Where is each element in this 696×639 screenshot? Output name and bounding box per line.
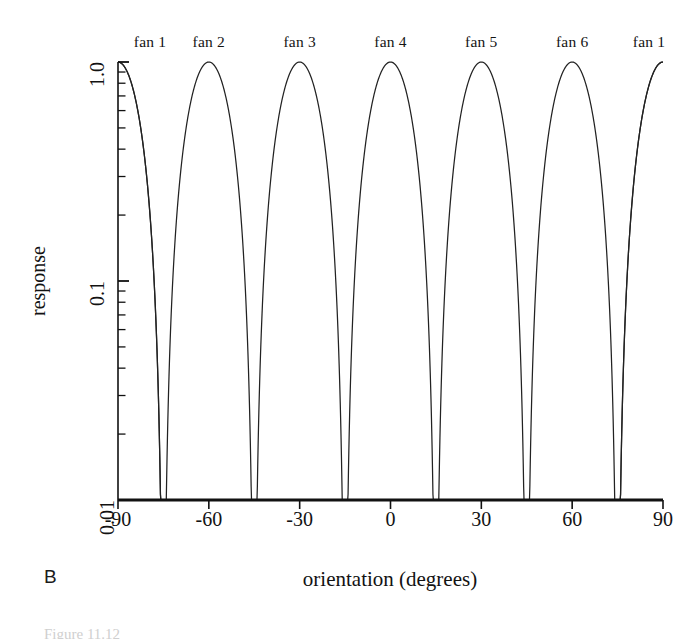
- y-tick-label: 0.01: [96, 500, 119, 535]
- fan-label: fan 1: [633, 33, 665, 51]
- x-tick-label: -60: [195, 508, 222, 531]
- fan-label: fan 6: [556, 33, 588, 51]
- axis-lines: [118, 62, 663, 500]
- curves-group: [118, 62, 663, 500]
- panel-label: B: [44, 566, 57, 588]
- fan-label: fan 5: [465, 33, 497, 51]
- y-tick-label: 1.0: [86, 62, 109, 87]
- plot-area: [118, 62, 663, 500]
- x-tick-label: -30: [286, 508, 313, 531]
- x-tick-label: 60: [562, 508, 582, 531]
- axis-ticks: [118, 62, 663, 509]
- tuning-curve: [118, 62, 663, 500]
- fan-label: fan 2: [193, 33, 225, 51]
- y-tick-label: 0.1: [86, 281, 109, 306]
- y-axis-title: response: [27, 246, 50, 316]
- tuning-curve-plot: [118, 62, 663, 500]
- tuning-curve: [118, 62, 663, 500]
- tuning-curve: [118, 62, 663, 500]
- tuning-curve: [118, 62, 663, 500]
- figure-panel-b: fan 1fan 2fan 3fan 4fan 5fan 6fan 1 -90-…: [0, 0, 696, 639]
- fan-label: fan 3: [283, 33, 315, 51]
- fan-label: fan 4: [374, 33, 406, 51]
- x-tick-label: 0: [386, 508, 396, 531]
- tuning-curve: [118, 62, 663, 500]
- fan-label: fan 1: [134, 33, 166, 51]
- caption-remnant: Figure 11.12: [44, 626, 120, 639]
- x-axis-title: orientation (degrees): [303, 567, 477, 592]
- x-tick-label: 30: [471, 508, 491, 531]
- x-tick-label: 90: [653, 508, 673, 531]
- tuning-curve: [118, 62, 663, 500]
- tuning-curve: [118, 62, 663, 500]
